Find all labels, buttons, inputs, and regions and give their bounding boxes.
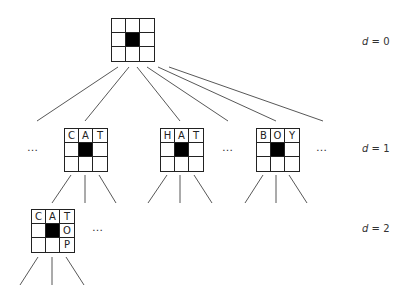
letter-cell: T (189, 129, 203, 143)
depth-value: 2 (383, 223, 389, 234)
blocked-cell (175, 143, 189, 157)
depth-label-1: d = 1 (362, 143, 390, 154)
empty-cell (32, 224, 46, 238)
board-cat: CAT (64, 128, 108, 172)
empty-cell (32, 238, 46, 252)
root-board (111, 18, 155, 62)
empty-cell (112, 33, 126, 47)
edge (245, 175, 263, 203)
empty-cell (140, 47, 154, 61)
empty-cell (126, 47, 140, 61)
blocked-cell (271, 143, 285, 157)
empty-cell (112, 19, 126, 33)
depth-label-0: d = 0 (362, 36, 390, 47)
empty-cell (189, 157, 203, 171)
edge (20, 257, 38, 285)
depth-operator: = (372, 223, 380, 234)
depth-variable: d (362, 223, 368, 234)
letter-cell: B (257, 129, 271, 143)
empty-cell (285, 157, 299, 171)
edge (158, 67, 276, 121)
letter-cell: H (161, 129, 175, 143)
ellipsis-d2: … (92, 221, 104, 234)
empty-cell (285, 143, 299, 157)
ellipsis-mid-d1: … (222, 141, 234, 154)
blocked-cell (46, 224, 60, 238)
letter-cell: C (65, 129, 79, 143)
edge (52, 175, 71, 203)
letter-cell: P (60, 238, 74, 252)
edge (194, 175, 212, 203)
depth-variable: d (362, 143, 368, 154)
board-hat: HAT (160, 128, 204, 172)
edge (169, 67, 323, 121)
edge (289, 175, 307, 203)
ellipsis-left-d1: … (27, 141, 39, 154)
empty-cell (93, 143, 107, 157)
letter-cell: A (175, 129, 189, 143)
empty-cell (46, 238, 60, 252)
empty-cell (175, 157, 189, 171)
letter-cell: T (60, 210, 74, 224)
empty-cell (189, 143, 203, 157)
empty-cell (271, 157, 285, 171)
empty-cell (161, 157, 175, 171)
empty-cell (140, 19, 154, 33)
depth-operator: = (372, 143, 380, 154)
empty-cell (65, 143, 79, 157)
ellipsis-right-d1: … (316, 141, 328, 154)
letter-cell: A (46, 210, 60, 224)
empty-cell (257, 143, 271, 157)
letter-cell: Y (285, 129, 299, 143)
letter-cell: C (32, 210, 46, 224)
empty-cell (112, 47, 126, 61)
depth-value: 0 (383, 36, 389, 47)
empty-cell (126, 19, 140, 33)
letter-cell: O (271, 129, 285, 143)
empty-cell (65, 157, 79, 171)
depth-label-2: d = 2 (362, 223, 390, 234)
edge (66, 257, 84, 285)
edge (147, 67, 228, 121)
depth-value: 1 (383, 143, 389, 154)
empty-cell (140, 33, 154, 47)
board-catop: CATOP (31, 209, 75, 253)
letter-cell: T (93, 129, 107, 143)
edge (85, 67, 129, 121)
letter-cell: A (79, 129, 93, 143)
empty-cell (79, 157, 93, 171)
edge (148, 175, 167, 203)
edge (99, 175, 116, 203)
edge (37, 67, 118, 121)
depth-operator: = (372, 36, 380, 47)
empty-cell (93, 157, 107, 171)
board-boy: BOY (256, 128, 300, 172)
letter-cell: O (60, 224, 74, 238)
empty-cell (257, 157, 271, 171)
empty-cell (161, 143, 175, 157)
depth-variable: d (362, 36, 368, 47)
blocked-cell (126, 33, 140, 47)
blocked-cell (79, 143, 93, 157)
